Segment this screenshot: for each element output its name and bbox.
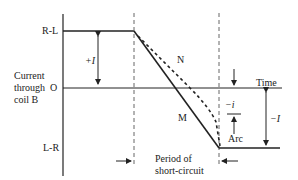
origin-label: O <box>50 82 57 94</box>
minus-small-i-label: −i <box>225 99 235 111</box>
plus-i-label: +I <box>85 55 95 67</box>
period-label-2: short-circuit <box>155 165 204 177</box>
lr-label: L-R <box>43 142 59 154</box>
axis-title-3: coil B <box>14 94 38 106</box>
time-label: Time <box>256 77 277 89</box>
arc-label: Arc <box>228 133 243 145</box>
curve-n-label: N <box>177 54 184 66</box>
period-label-1: Period of <box>155 153 192 165</box>
curve-m-label: M <box>178 112 187 124</box>
minus-i-label: −I <box>270 113 280 125</box>
axis-title-2: through <box>14 82 45 94</box>
rl-label: R-L <box>42 25 58 37</box>
curve-m <box>134 31 219 148</box>
axis-title-1: Current <box>14 70 45 82</box>
